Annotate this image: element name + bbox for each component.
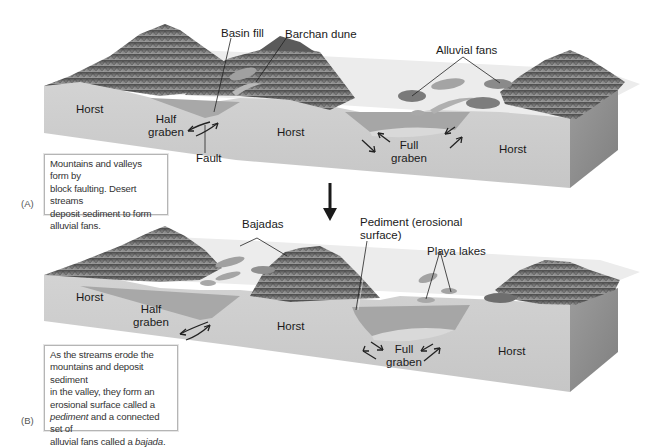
label-full-graben-line2: graben [387, 152, 431, 165]
caption-a-line2: block faulting. Desert streams [50, 183, 162, 208]
caption-b: As the streams erode the mountains and d… [44, 345, 178, 431]
label-barchan-dune: Barchan dune [285, 28, 357, 41]
label-half-graben: Half graben [143, 113, 189, 139]
label-horst-left: Horst [76, 103, 103, 116]
panel-letter-a: (A) [21, 198, 34, 209]
caption-b-line3: in the valley, they form an [50, 386, 172, 398]
label-horst-right: Horst [499, 143, 526, 156]
label-bajadas: Bajadas [242, 218, 284, 231]
label-full-graben-b-line2: graben [382, 356, 426, 369]
caption-b-line2: mountains and deposit sediment [50, 361, 172, 386]
label-horst-middle: Horst [277, 126, 304, 139]
caption-b-line4: erosional surface called a [50, 399, 172, 411]
caption-b-line6-start: alluvial fans called a [50, 436, 135, 447]
caption-a-line4: alluvial fans. [50, 220, 162, 232]
label-full-graben-b: Full graben [382, 343, 426, 369]
label-pediment-line2: surface) [360, 229, 462, 242]
label-pediment-line1: Pediment (erosional [360, 216, 462, 229]
label-basin-fill: Basin fill [221, 27, 264, 40]
label-horst-left-b: Horst [76, 291, 103, 304]
label-full-graben: Full graben [387, 139, 431, 165]
caption-b-line6: alluvial fans called a bajada. [50, 436, 172, 448]
label-full-graben-line1: Full [387, 139, 431, 152]
caption-a: Mountains and valleys form by block faul… [44, 154, 168, 215]
label-playa-lakes: Playa lakes [427, 245, 486, 258]
label-half-graben-b: Half graben [128, 303, 174, 329]
label-half-graben-b-line2: graben [128, 316, 174, 329]
label-horst-right-b: Horst [498, 345, 525, 358]
label-half-graben-line1: Half [143, 113, 189, 126]
label-half-graben-line2: graben [143, 126, 189, 139]
term-bajada: bajada [135, 436, 163, 447]
label-half-graben-b-line1: Half [128, 303, 174, 316]
term-pediment: pediment [50, 411, 88, 422]
label-fault: Fault [196, 152, 222, 165]
caption-b-line5: pediment and a connected set of [50, 411, 172, 436]
label-full-graben-b-line1: Full [382, 343, 426, 356]
caption-b-line1: As the streams erode the [50, 349, 172, 361]
caption-b-line6-end: . [163, 436, 166, 447]
caption-a-line1: Mountains and valleys form by [50, 158, 162, 183]
label-alluvial-fans: Alluvial fans [436, 44, 497, 57]
label-horst-middle-b: Horst [277, 320, 304, 333]
caption-a-line3: deposit sediment to form [50, 208, 162, 220]
panel-letter-b: (B) [21, 415, 34, 426]
label-pediment: Pediment (erosional surface) [360, 216, 462, 242]
down-arrow-icon [323, 183, 337, 221]
